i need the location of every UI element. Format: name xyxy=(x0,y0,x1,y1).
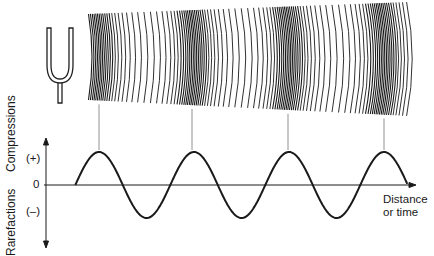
axes xyxy=(44,138,417,248)
x-axis-arrow xyxy=(409,183,416,188)
compression-guide-lines xyxy=(99,104,384,150)
y-axis-down-arrow xyxy=(44,241,49,248)
y-axis-up-arrow xyxy=(44,138,49,145)
minus-label: (–) xyxy=(26,205,40,218)
zero-label: 0 xyxy=(33,178,39,191)
plus-label: (+) xyxy=(26,152,40,165)
distance-label: Distance xyxy=(383,193,428,206)
tuning-fork-icon xyxy=(47,28,73,103)
compressions-label: Compressions xyxy=(4,95,18,172)
sound-wave-diagram xyxy=(0,0,434,256)
or-time-label: or time xyxy=(383,206,418,219)
rarefactions-label: Rarefactions xyxy=(4,189,18,256)
pressure-wavefronts xyxy=(89,2,413,116)
